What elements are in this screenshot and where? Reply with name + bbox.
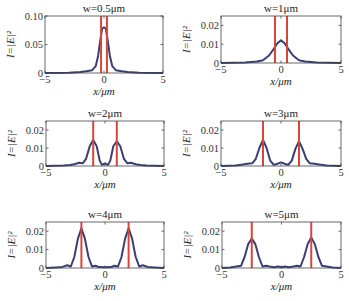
x-axis-label: x/μm: [269, 178, 291, 190]
y-tick-label: 0.02: [201, 125, 219, 136]
y-tick-label: 0: [215, 263, 220, 274]
intensity-curve: [221, 140, 341, 166]
y-axis-label: I=|E|²: [180, 129, 192, 158]
y-tick-label: 0.01: [201, 143, 219, 154]
subplot-title: w=3μm: [264, 107, 299, 119]
x-tick-label: 5: [160, 74, 165, 85]
x-axis-label: x/μm: [269, 75, 291, 87]
subplot-title: w=2μm: [88, 107, 123, 119]
subplot-title: w=1μm: [264, 2, 299, 14]
y-tick-label: 0.02: [201, 20, 219, 31]
axes-frame: [45, 16, 163, 73]
subplot-title: w=5μm: [264, 208, 299, 220]
subplot-w-5um: w=5μm−50500.010.02x/μmI=|E|²: [181, 208, 344, 292]
y-tick-label: 0.05: [25, 39, 43, 50]
axes-frame: [46, 222, 164, 268]
y-axis-label: I=|E|²: [181, 231, 193, 260]
axes-frame: [46, 121, 164, 166]
x-tick-label: 0: [278, 64, 283, 75]
y-axis-label: I=|E|²: [4, 30, 16, 59]
x-axis-label: x/μm: [92, 85, 114, 97]
subplot-title: w=0.5μm: [83, 2, 126, 14]
y-tick-label: 0: [39, 161, 44, 172]
y-tick-label: 0.02: [202, 226, 220, 237]
x-tick-label: 5: [338, 269, 343, 280]
x-tick-label: 5: [161, 269, 166, 280]
intensity-curve: [221, 40, 341, 63]
y-axis-label: I=|E|²: [180, 25, 192, 54]
y-tick-label: 0: [214, 58, 219, 69]
intensity-curve: [45, 27, 163, 73]
x-tick-label: 5: [338, 64, 343, 75]
x-tick-label: 0: [101, 74, 106, 85]
subplot-title: w=4μm: [88, 208, 123, 220]
y-tick-label: 0.01: [202, 244, 220, 255]
intensity-curve: [222, 238, 341, 268]
x-axis-label: x/μm: [270, 280, 292, 292]
x-axis-label: x/μm: [93, 178, 115, 190]
intensity-curve: [46, 228, 164, 268]
y-tick-label: 0: [39, 263, 44, 274]
y-tick-label: 0: [214, 161, 219, 172]
y-tick-label: 0.01: [26, 143, 44, 154]
x-tick-label: 5: [161, 167, 166, 178]
subplot-w-3um: w=3μm−50500.010.02x/μmI=|E|²: [180, 107, 344, 190]
intensity-curve: [46, 140, 164, 166]
x-tick-label: 0: [102, 269, 107, 280]
y-tick-label: 0.02: [26, 125, 44, 136]
axes-frame: [221, 121, 341, 166]
y-tick-label: 0.01: [201, 39, 219, 50]
subplot-w-4um: w=4μm−50500.010.02x/μmI=|E|²: [5, 208, 167, 292]
subplot-w-2um: w=2μm−50500.010.02x/μmI=|E|²: [5, 107, 167, 190]
figure: w=0.5μm−50500.050.10x/μmI=|E|² w=1μm−505…: [0, 0, 349, 301]
subplot-w-0.5um: w=0.5μm−50500.050.10x/μmI=|E|²: [4, 2, 166, 97]
subplot-w-1um: w=1μm−50500.010.02x/μmI=|E|²: [180, 2, 344, 87]
axes-frame: [222, 222, 341, 268]
x-tick-label: 0: [102, 167, 107, 178]
x-tick-label: 5: [338, 167, 343, 178]
y-tick-label: 0.01: [26, 244, 44, 255]
y-tick-label: 0.10: [25, 11, 43, 22]
y-tick-label: 0: [38, 68, 43, 79]
x-tick-label: 0: [279, 269, 284, 280]
y-axis-label: I=|E|²: [5, 231, 17, 260]
y-tick-label: 0.02: [26, 226, 44, 237]
y-axis-label: I=|E|²: [5, 129, 17, 158]
x-tick-label: 0: [278, 167, 283, 178]
x-axis-label: x/μm: [93, 280, 115, 292]
